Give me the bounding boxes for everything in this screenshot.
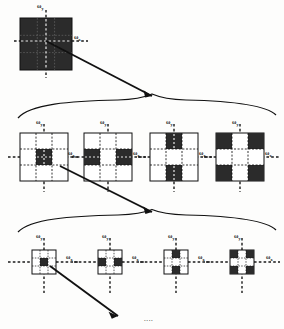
l3-b1-y-axis-label: ωy bbox=[36, 233, 42, 241]
frequency-subband-decomposition-figure: ωy ωx bbox=[0, 0, 284, 329]
l3-b1-x-axis-label: ωx bbox=[66, 254, 72, 262]
l3-b4-x-axis-label: ωx bbox=[266, 254, 272, 262]
l3-b4-cell-0-0-filled bbox=[230, 250, 238, 258]
l3-b2-cell-1-2-filled bbox=[114, 258, 122, 266]
l3-b2-y-axis-label: ωy bbox=[102, 233, 108, 241]
l3-b1-cell-1-1-filled bbox=[40, 258, 48, 266]
l3-b3-y-axis-label: ωy bbox=[168, 233, 174, 241]
continuation-ellipsis: .... bbox=[144, 315, 153, 323]
l3-b2 bbox=[74, 238, 146, 293]
l3-b3-cell-0-1-filled bbox=[172, 250, 180, 258]
l3-b4-cell-0-2-filled bbox=[246, 250, 254, 258]
l3-b4-y-axis-label: ωy bbox=[234, 233, 240, 241]
l3-b3-cell-2-1-filled bbox=[172, 266, 180, 274]
l3-b4-cell-2-0-filled bbox=[230, 266, 238, 274]
l3-b2-x-axis-label: ωx bbox=[132, 254, 138, 262]
l3-b3-x-axis-label: ωx bbox=[198, 254, 204, 262]
l3-b1 bbox=[8, 238, 80, 293]
l3-b2-cell-1-0-filled bbox=[98, 258, 106, 266]
level-3-group bbox=[0, 0, 284, 329]
l3-b3 bbox=[140, 238, 212, 293]
l3-b4 bbox=[206, 238, 280, 293]
l3-b4-cell-2-2-filled bbox=[246, 266, 254, 274]
